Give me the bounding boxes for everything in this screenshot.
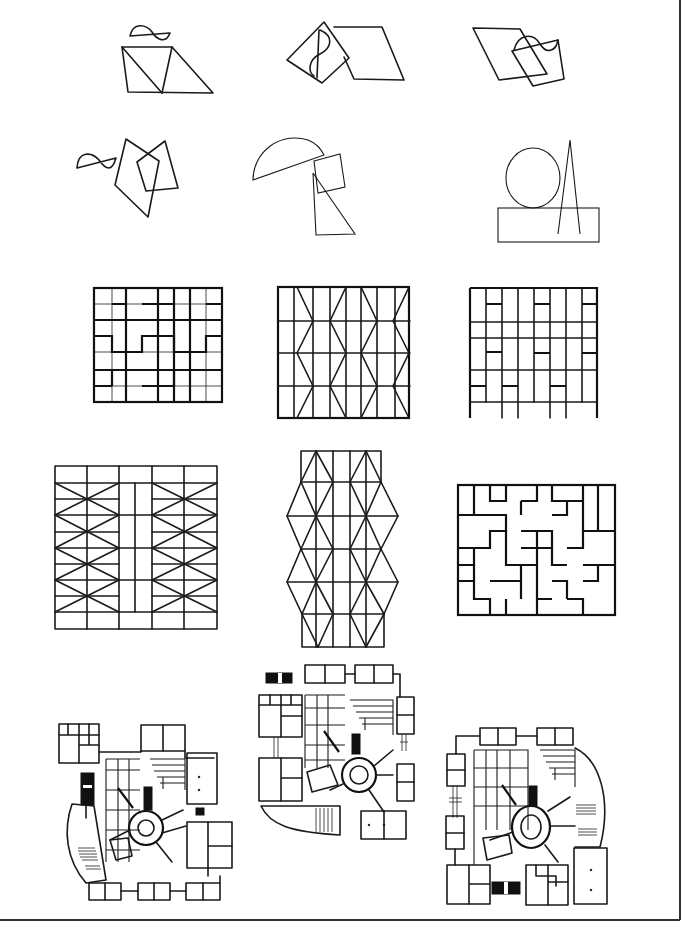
sketch-canvas xyxy=(0,0,686,927)
panel-circle-triangle-rectangle xyxy=(498,140,599,242)
panel-diamond-lattice-tower xyxy=(287,451,398,647)
panel-site-plan-a xyxy=(59,724,232,900)
panel-irregular-block-grid xyxy=(470,288,597,418)
sketch-sheet: Composition and tessellation studies xyxy=(0,0,686,927)
panel-parallelogram-with-wavy-quad xyxy=(473,28,564,86)
panel-rotated-square-with-s-curve xyxy=(287,22,404,83)
panel-sine-over-trapezoid-triangle xyxy=(122,26,213,93)
panel-h-pattern-grid xyxy=(94,288,222,402)
sheet-frame xyxy=(0,0,680,920)
panel-site-plan-b xyxy=(259,665,414,839)
panel-chevron-grid xyxy=(278,287,410,418)
panel-semicircle-square-triangle xyxy=(253,138,355,235)
panel-cross-tessellation xyxy=(458,485,615,615)
panel-x-braced-grid xyxy=(55,466,217,629)
panel-sine-and-two-quads xyxy=(77,139,178,217)
panel-site-plan-c xyxy=(446,728,607,905)
